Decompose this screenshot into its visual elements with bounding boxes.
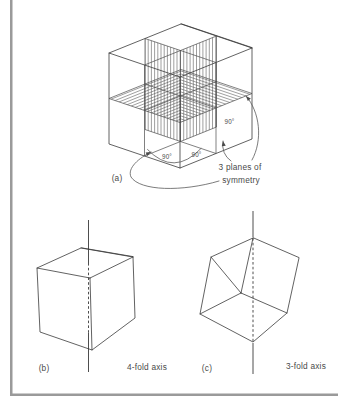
cube-c-outline <box>200 238 299 342</box>
arrowhead-icon <box>246 96 251 101</box>
panel-c-label: (c) <box>202 363 212 373</box>
panel-b-label: (b) <box>39 363 50 373</box>
textbook-figure: 90° 90° 90° (a) 3 planes of symmetry (b)… <box>0 0 341 403</box>
cube-a-plane-edges <box>109 36 252 156</box>
frame-left-rule <box>10 0 13 396</box>
annotation-line-2: symmetry <box>222 175 260 185</box>
annotation-line-1: 3 planes of <box>219 162 262 172</box>
cube-a-group: 90° 90° 90° (a) 3 planes of symmetry <box>107 24 262 188</box>
angle-label-center: 90° <box>191 151 201 158</box>
angle-label-right: 90° <box>224 118 234 125</box>
panel-c-caption: 3-fold axis <box>286 361 326 371</box>
angle-label-left: 90° <box>162 153 172 160</box>
leader-arrowheads <box>146 96 251 156</box>
cube-b-outline <box>37 248 135 350</box>
cube-c-group: (c) 3-fold axis <box>200 211 326 374</box>
frame-bottom-rule <box>10 394 338 397</box>
panel-a-label: (a) <box>112 173 123 183</box>
panel-b-caption: 4-fold axis <box>127 362 167 372</box>
symmetry-diagram: 90° 90° 90° (a) 3 planes of symmetry (b)… <box>0 0 341 403</box>
cube-b-group: (b) 4-fold axis <box>37 220 167 373</box>
